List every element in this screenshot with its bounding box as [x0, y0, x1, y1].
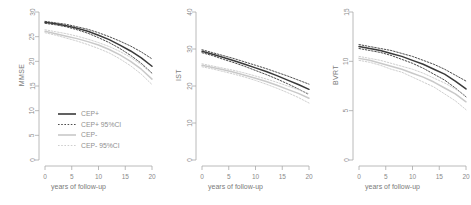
- svg-text:15: 15: [29, 82, 36, 90]
- svg-text:20: 20: [462, 173, 470, 180]
- svg-text:10: 10: [409, 173, 417, 180]
- svg-text:20: 20: [148, 173, 156, 180]
- svg-text:5: 5: [227, 173, 231, 180]
- svg-text:0: 0: [357, 173, 361, 180]
- svg-text:15: 15: [436, 173, 444, 180]
- svg-text:5: 5: [70, 173, 74, 180]
- svg-text:CEP+ 95%CI: CEP+ 95%CI: [81, 121, 121, 128]
- svg-text:CEP- 95%CI: CEP- 95%CI: [81, 142, 120, 149]
- x-axis-label-mmse: years of follow-up: [0, 183, 157, 190]
- svg-text:10: 10: [95, 173, 103, 180]
- svg-text:25: 25: [29, 33, 36, 41]
- svg-text:10: 10: [252, 173, 260, 180]
- svg-text:15: 15: [343, 8, 350, 16]
- panel-ist: 01020304005101520 IST years of follow-up: [157, 0, 314, 205]
- x-axis-label-ist: years of follow-up: [157, 183, 314, 190]
- svg-text:20: 20: [29, 57, 36, 65]
- svg-text:10: 10: [29, 107, 36, 115]
- y-axis-label-bvrt: BVRT: [332, 40, 339, 110]
- y-axis-label-ist: IST: [175, 40, 182, 110]
- panel-mmse: 05101520253005101520CEP+CEP+ 95%CICEP-CE…: [0, 0, 157, 205]
- svg-text:5: 5: [384, 173, 388, 180]
- svg-text:40: 40: [186, 8, 193, 16]
- svg-text:5: 5: [29, 133, 36, 137]
- ylabel-wrap-ist: IST: [165, 0, 179, 150]
- figure-multipanel-cognitive-decline: 05101520253005101520CEP+CEP+ 95%CICEP-CE…: [0, 0, 471, 205]
- svg-text:10: 10: [186, 119, 193, 127]
- svg-text:20: 20: [305, 173, 313, 180]
- svg-text:30: 30: [186, 45, 193, 53]
- svg-text:0: 0: [43, 173, 47, 180]
- svg-text:10: 10: [343, 57, 350, 65]
- svg-text:30: 30: [29, 8, 36, 16]
- svg-text:0: 0: [200, 173, 204, 180]
- svg-text:0: 0: [29, 158, 36, 162]
- svg-text:CEP+: CEP+: [81, 110, 99, 117]
- y-axis-label-mmse: MMSE: [18, 40, 25, 110]
- panel-bvrt: 05101505101520 BVRT years of follow-up: [314, 0, 471, 205]
- svg-text:0: 0: [186, 158, 193, 162]
- svg-text:5: 5: [343, 108, 350, 112]
- x-axis-label-bvrt: years of follow-up: [314, 183, 471, 190]
- svg-text:20: 20: [186, 82, 193, 90]
- svg-text:15: 15: [279, 173, 287, 180]
- ylabel-wrap-bvrt: BVRT: [322, 0, 336, 150]
- svg-text:0: 0: [343, 158, 350, 162]
- svg-text:15: 15: [122, 173, 130, 180]
- ylabel-wrap-mmse: MMSE: [8, 0, 22, 150]
- svg-text:CEP-: CEP-: [81, 131, 97, 138]
